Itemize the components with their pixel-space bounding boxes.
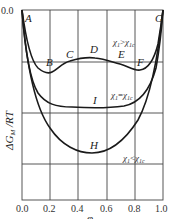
point-label-F: F <box>136 56 144 68</box>
point-label-E: E <box>117 48 125 60</box>
phase-diagram-chart: 0.0 0.0 0.2 0.4 0.6 0.8 1.0 φ2 ΔGM /RT A… <box>0 0 175 219</box>
curve-chi-less <box>22 10 163 153</box>
annotation-chi-greater: χ1>χ1c <box>112 37 135 48</box>
x-axis-label: φ2 <box>87 212 97 219</box>
point-label-B: B <box>46 56 53 68</box>
svg-text:1.0: 1.0 <box>155 203 168 214</box>
svg-text:0.4: 0.4 <box>71 203 84 214</box>
point-label-G: G <box>155 12 163 24</box>
annotation-chi-equal: χ1=χ1c <box>110 90 133 101</box>
svg-text:0.8: 0.8 <box>128 203 141 214</box>
y-axis-label: ΔGM /RT <box>3 110 17 151</box>
y-tick-zero: 0.0 <box>1 5 14 16</box>
svg-text:0.2: 0.2 <box>43 203 56 214</box>
point-label-D: D <box>89 43 98 55</box>
point-label-C: C <box>66 48 74 60</box>
annotation-chi-less: χ1<χ1c <box>122 153 145 164</box>
svg-text:0.0: 0.0 <box>16 203 29 214</box>
svg-text:0.6: 0.6 <box>100 203 113 214</box>
point-label-H: H <box>89 139 99 151</box>
point-label-A: A <box>24 12 32 24</box>
point-label-I: I <box>92 94 98 106</box>
